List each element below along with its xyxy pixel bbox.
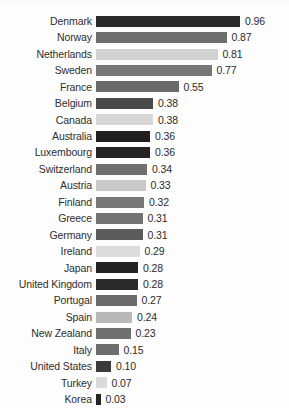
chart-row: United Kingdom0.28: [0, 276, 289, 292]
category-label: Ireland: [0, 246, 96, 257]
bar-zone: 0.96: [96, 13, 289, 29]
value-label: 0.34: [147, 164, 172, 175]
value-label: 0.15: [119, 345, 144, 356]
chart-row: Greece0.31: [0, 210, 289, 226]
bar: [96, 377, 107, 388]
value-label: 0.38: [153, 98, 178, 109]
category-label: Germany: [0, 230, 96, 241]
chart-row: Canada0.38: [0, 112, 289, 128]
value-label: 0.31: [143, 230, 168, 241]
bar-zone: 0.36: [96, 145, 289, 161]
chart-row: Belgium0.38: [0, 95, 289, 111]
category-label: Belgium: [0, 98, 96, 109]
category-label: France: [0, 82, 96, 93]
bar-zone: 0.29: [96, 243, 289, 259]
chart-row: Korea0.03: [0, 391, 289, 407]
bar: [96, 65, 212, 76]
value-label: 0.29: [140, 246, 165, 257]
bar: [96, 229, 143, 240]
value-label: 0.96: [240, 16, 265, 27]
category-label: Canada: [0, 115, 96, 126]
category-label: United Kingdom: [0, 279, 96, 290]
chart-row: Germany0.31: [0, 227, 289, 243]
chart-row: Norway0.87: [0, 29, 289, 45]
bar: [96, 131, 150, 142]
chart-row: Italy0.15: [0, 342, 289, 358]
value-label: 0.38: [153, 115, 178, 126]
bar: [96, 246, 140, 257]
category-label: United States: [0, 361, 96, 372]
chart-row: Australia0.36: [0, 128, 289, 144]
bar: [96, 344, 119, 355]
chart-row: Switzerland0.34: [0, 161, 289, 177]
chart-row: Luxembourg0.36: [0, 145, 289, 161]
category-label: Sweden: [0, 65, 96, 76]
bar-zone: 0.32: [96, 194, 289, 210]
category-label: Portugal: [0, 295, 96, 306]
bar-zone: 0.31: [96, 210, 289, 226]
category-label: Norway: [0, 32, 96, 43]
bar: [96, 312, 132, 323]
chart-row: Austria0.33: [0, 177, 289, 193]
bar: [96, 114, 153, 125]
category-label: Luxembourg: [0, 147, 96, 158]
bar: [96, 197, 144, 208]
bar: [96, 32, 227, 43]
value-label: 0.31: [143, 213, 168, 224]
category-label: Switzerland: [0, 164, 96, 175]
bar: [96, 81, 179, 92]
category-label: Australia: [0, 131, 96, 142]
bar-zone: 0.77: [96, 62, 289, 78]
bar-zone: 0.31: [96, 227, 289, 243]
value-label: 0.28: [138, 263, 163, 274]
bar-zone: 0.28: [96, 260, 289, 276]
category-label: Korea: [0, 394, 96, 405]
bar-zone: 0.10: [96, 358, 289, 374]
bar: [96, 361, 111, 372]
bar: [96, 180, 146, 191]
chart-row: Sweden0.77: [0, 62, 289, 78]
bar: [96, 262, 138, 273]
category-label: Austria: [0, 180, 96, 191]
category-label: Finland: [0, 197, 96, 208]
value-label: 0.23: [131, 328, 156, 339]
bar-zone: 0.38: [96, 95, 289, 111]
value-label: 0.77: [212, 65, 237, 76]
value-label: 0.28: [138, 279, 163, 290]
bar: [96, 98, 153, 109]
bar: [96, 164, 147, 175]
value-label: 0.03: [101, 394, 126, 405]
bar-zone: 0.03: [96, 391, 289, 407]
value-label: 0.10: [111, 361, 136, 372]
bar-zone: 0.55: [96, 79, 289, 95]
bar: [96, 213, 143, 224]
value-label: 0.36: [150, 131, 175, 142]
bar: [96, 147, 150, 158]
bar: [96, 279, 138, 290]
bar-zone: 0.15: [96, 342, 289, 358]
category-label: Netherlands: [0, 49, 96, 60]
chart-row: Ireland0.29: [0, 243, 289, 259]
category-label: Turkey: [0, 378, 96, 389]
chart-row: Portugal0.27: [0, 292, 289, 308]
value-label: 0.32: [144, 197, 169, 208]
bar-zone: 0.87: [96, 29, 289, 45]
chart-row: Japan0.28: [0, 260, 289, 276]
chart-row: Turkey0.07: [0, 375, 289, 391]
chart-row: New Zealand0.23: [0, 325, 289, 341]
chart-row: Finland0.32: [0, 194, 289, 210]
category-label: Japan: [0, 263, 96, 274]
value-label: 0.55: [179, 82, 204, 93]
value-label: 0.24: [132, 312, 157, 323]
chart-title-area: [0, 0, 289, 11]
chart-rows: Denmark0.96Norway0.87Netherlands0.81Swed…: [0, 13, 289, 408]
chart-row: Denmark0.96: [0, 13, 289, 29]
bar: [96, 49, 218, 60]
value-label: 0.27: [137, 295, 162, 306]
category-label: Italy: [0, 345, 96, 356]
bar-zone: 0.34: [96, 161, 289, 177]
chart-row: France0.55: [0, 79, 289, 95]
bar-zone: 0.28: [96, 276, 289, 292]
bar: [96, 295, 137, 306]
bar-zone: 0.07: [96, 375, 289, 391]
